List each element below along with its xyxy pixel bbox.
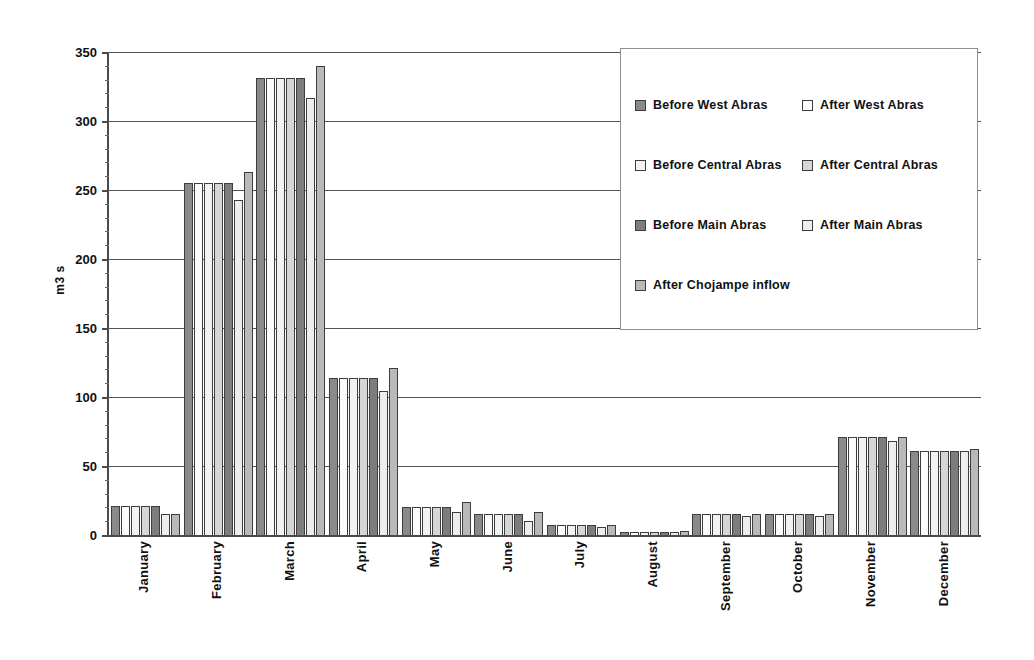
bar (858, 437, 867, 535)
bar (785, 514, 794, 535)
x-label-cell: June (470, 537, 543, 652)
x-axis-label-august: August (645, 541, 660, 588)
legend-swatch-icon (802, 220, 813, 231)
legend-swatch-icon (635, 220, 646, 231)
bar (742, 516, 751, 535)
bar (121, 506, 130, 535)
bar (184, 183, 193, 535)
bar (224, 183, 233, 535)
x-label-cell: April (325, 537, 398, 652)
bar (286, 78, 295, 535)
legend-item[interactable]: After Main Abras (802, 195, 963, 255)
bar-group-april (327, 52, 400, 535)
bar (597, 527, 606, 535)
x-label-cell: October (761, 537, 834, 652)
bar (524, 521, 533, 535)
bar (389, 368, 398, 535)
bar (838, 437, 847, 535)
bar (950, 451, 959, 535)
x-axis-label-june: June (499, 541, 514, 573)
bar (111, 506, 120, 535)
bar (930, 451, 939, 535)
y-tick-mark-100 (102, 397, 109, 399)
bar (650, 532, 659, 535)
bar (256, 78, 265, 535)
bar (234, 200, 243, 535)
legend-label: Before Main Abras (653, 218, 766, 232)
legend-item[interactable]: Before West Abras (635, 75, 796, 135)
x-axis-label-february: February (209, 541, 224, 599)
y-tick-label-250: 250 (49, 183, 97, 198)
y-tick-label-50: 50 (49, 459, 97, 474)
bar-group-march (254, 52, 327, 535)
x-axis-label-september: September (717, 541, 732, 611)
bar (349, 378, 358, 535)
bar (484, 514, 493, 535)
bar (316, 66, 325, 535)
legend-label: Before West Abras (653, 98, 768, 112)
x-label-cell: May (398, 537, 471, 652)
bar (805, 514, 814, 535)
legend-item[interactable]: After West Abras (802, 75, 963, 135)
bar (878, 437, 887, 535)
x-label-cell: February (180, 537, 253, 652)
legend-label: After Main Abras (820, 218, 923, 232)
legend-label: After Chojampe inflow (653, 278, 790, 292)
bar (141, 506, 150, 535)
legend-swatch-icon (802, 160, 813, 171)
bar (462, 502, 471, 535)
y-tick-label-350: 350 (49, 45, 97, 60)
bar (306, 98, 315, 535)
bar (432, 507, 441, 535)
bar (910, 451, 919, 535)
bar (640, 532, 649, 535)
bar (547, 525, 556, 535)
x-axis-label-november: November (863, 541, 878, 607)
bar (494, 514, 503, 535)
legend-item[interactable]: Before Central Abras (635, 135, 796, 195)
bar (577, 525, 586, 535)
bar (474, 514, 483, 535)
bar (620, 532, 629, 535)
x-label-cell: December (906, 537, 979, 652)
bar-group-july (545, 52, 618, 535)
bar (775, 514, 784, 535)
bar (214, 183, 223, 535)
bar (702, 514, 711, 535)
bar (722, 514, 731, 535)
legend-swatch-icon (635, 100, 646, 111)
bar (194, 183, 203, 535)
x-axis-label-march: March (281, 541, 296, 581)
bar (534, 512, 543, 535)
legend-swatch-icon (802, 100, 813, 111)
bar (815, 516, 824, 535)
bar (670, 532, 679, 535)
x-axis-category-labels: JanuaryFebruaryMarchAprilMayJuneJulyAugu… (107, 537, 979, 652)
bar (266, 78, 275, 535)
bar (442, 507, 451, 535)
y-tick-mark-300 (102, 121, 109, 123)
bar (452, 512, 461, 535)
y-tick-mark-250 (102, 190, 109, 192)
bar (171, 514, 180, 535)
y-tick-label-100: 100 (49, 390, 97, 405)
y-tick-mark-350 (102, 52, 109, 54)
bar-group-june (472, 52, 545, 535)
bar (960, 451, 969, 535)
bar (868, 437, 877, 535)
y-tick-label-300: 300 (49, 114, 97, 129)
bar (161, 514, 170, 535)
bar (607, 525, 616, 535)
legend-item[interactable]: After Central Abras (802, 135, 963, 195)
x-axis-label-october: October (790, 541, 805, 593)
bar (567, 525, 576, 535)
bar (296, 78, 305, 535)
x-label-cell: September (688, 537, 761, 652)
legend-item[interactable]: Before Main Abras (635, 195, 796, 255)
bar (131, 506, 140, 535)
bar (630, 532, 639, 535)
bar (339, 378, 348, 535)
x-label-cell: January (107, 537, 180, 652)
bar (940, 451, 949, 535)
legend-item[interactable]: After Chojampe inflow (635, 255, 796, 315)
